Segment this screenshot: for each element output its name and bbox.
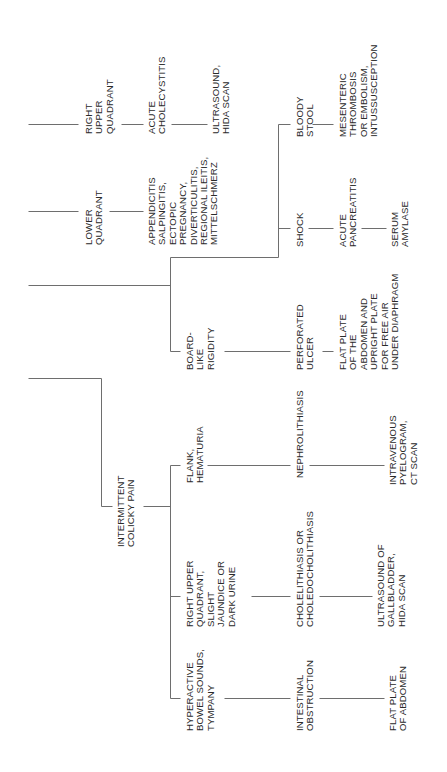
node-ultrasound-gallbladder: ULTRASOUND OF GALLBLADDER, HIDA SCAN — [376, 544, 407, 627]
node-acute-cholecystitis: ACUTE CHOLECYSTITIS — [147, 56, 168, 134]
node-intestinal-obstruction: INTESTINAL OBSTRUCTION — [295, 660, 316, 731]
differential-diagnosis-flowchart: RIGHT UPPER QUADRANT ACUTE CHOLECYSTITIS… — [0, 0, 447, 772]
node-flank-hematuria: FLANK, HEMATURIA — [185, 426, 206, 483]
node-intermittent-colicky-pain: INTERMITTENT COLICKY PAIN — [116, 475, 137, 547]
node-nephrolithiasis: NEPHROLITHIASIS — [295, 390, 305, 478]
node-perforated-ulcer: PERFORATED ULCER — [295, 304, 316, 370]
node-shock: SHOCK — [295, 212, 305, 247]
node-bloody-stool: BLOODY STOOL — [295, 96, 316, 137]
node-acute-pancreatitis: ACUTE PANCREATITIS — [338, 177, 359, 247]
node-cholelithiasis: CHOLELITHIASIS OR CHOLEDOCHOLITHIASIS — [295, 511, 316, 627]
node-ultrasound-hida-scan: ULTRASOUND, HIDA SCAN — [211, 65, 232, 134]
node-board-like-rigidity: BOARD- LIKE RIGIDITY — [185, 328, 216, 370]
node-ruq-jaundice: RIGHT UPPER QUADRANT, SLIGHT JAUNDICE OR… — [185, 561, 237, 628]
node-right-upper-quadrant: RIGHT UPPER QUADRANT — [84, 79, 115, 134]
node-appendicitis-group: APPENDICITIS SALPINGITIS, ECTOPIC PREGNA… — [147, 157, 220, 245]
node-intravenous-pyelogram: INTRAVENOUS PYELOGRAM, CT SCAN — [388, 415, 419, 485]
node-serum-amylase: SERUM AMYLASE — [390, 201, 411, 247]
node-flat-plate-upright: FLAT PLATE OF THE ABDOMEN AND UPRIGHT PL… — [338, 274, 400, 370]
node-hyperactive-bowel-sounds: HYPERACTIVE BOWEL SOUNDS, TYMPANY — [185, 649, 216, 731]
node-flat-plate-abdomen: FLAT PLATE OF ABDOMEN — [388, 666, 409, 731]
node-lower-quadrant: LOWER QUADRANT — [84, 190, 105, 245]
node-mesenteric-thrombosis: MESENTERIC THROMBOSIS OR EMBOLISM, INTUS… — [338, 44, 380, 137]
